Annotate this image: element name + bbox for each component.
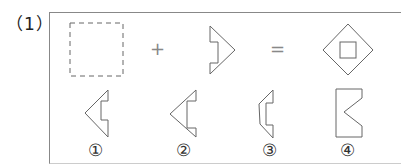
option-4-shape-icon [336,89,362,137]
equals-sign: = [270,38,285,59]
plus-sign: + [150,38,165,59]
option-4-label: ④ [340,140,355,160]
diamond-icon [323,24,373,75]
notched-arrow-icon [210,26,235,74]
option-3-label: ③ [262,140,277,160]
dashed-square-icon [70,23,123,76]
inner-square-icon [340,42,356,58]
option-1-label: ① [88,140,103,160]
option-1-shape-icon [85,90,108,137]
option-2-shape-icon [170,90,196,137]
option-2-label: ② [176,140,191,160]
option-3-shape-icon [259,90,273,138]
